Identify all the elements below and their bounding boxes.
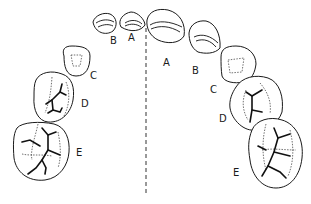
left-label-b: B <box>110 35 117 46</box>
left-label-a: A <box>128 32 135 43</box>
right-label-e: E <box>233 167 239 178</box>
right-label-c: C <box>210 84 217 95</box>
left-tooth-d <box>34 72 74 122</box>
right-label-a: A <box>163 57 170 68</box>
right-label-d: D <box>219 113 227 124</box>
right-label-b: B <box>192 65 199 76</box>
right-tooth-e <box>249 118 303 188</box>
left-tooth-c <box>63 46 90 76</box>
dental-arch-diagram: A B C D E A B C D E <box>0 0 311 204</box>
left-tooth-a <box>120 12 145 31</box>
left-label-e: E <box>76 147 82 158</box>
right-tooth-a <box>147 9 185 42</box>
left-tooth-e <box>13 122 69 180</box>
right-tooth-b <box>189 21 220 53</box>
left-label-c: C <box>90 70 97 81</box>
left-label-d: D <box>81 98 89 109</box>
left-tooth-b <box>93 13 116 33</box>
